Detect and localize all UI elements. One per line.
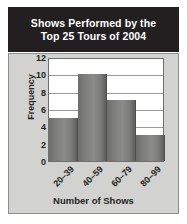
y-axis-tick-label: 12 <box>29 54 46 63</box>
chart-figure: Shows Performed by the Top 25 Tours of 2… <box>0 0 187 224</box>
y-axis-tick-labels: 024681012 <box>29 58 46 162</box>
chart-title-line-1: Shows Performed by the <box>31 17 156 30</box>
bar <box>78 74 107 161</box>
x-axis-title: Number of Shows <box>9 195 178 206</box>
bar <box>136 135 165 161</box>
chart-panel: Frequency 024681012 20–3940–5960–7980–99… <box>8 53 179 214</box>
y-axis-tick-label: 8 <box>29 88 46 97</box>
y-axis-tick-label: 6 <box>29 106 46 115</box>
y-axis-tick-label: 2 <box>29 140 46 149</box>
plot-area <box>48 58 164 162</box>
chart-title-banner: Shows Performed by the Top 25 Tours of 2… <box>8 7 179 52</box>
bar <box>49 118 78 161</box>
chart-title-line-2: Top 25 Tours of 2004 <box>41 30 146 43</box>
x-axis-tick-labels: 20–3940–5960–7980–99 <box>48 164 164 198</box>
bar <box>107 100 136 161</box>
y-axis-tick-label: 4 <box>29 123 46 132</box>
bar-series <box>49 59 163 161</box>
y-axis-tick-label: 0 <box>29 158 46 167</box>
y-axis-tick-label: 10 <box>29 71 46 80</box>
